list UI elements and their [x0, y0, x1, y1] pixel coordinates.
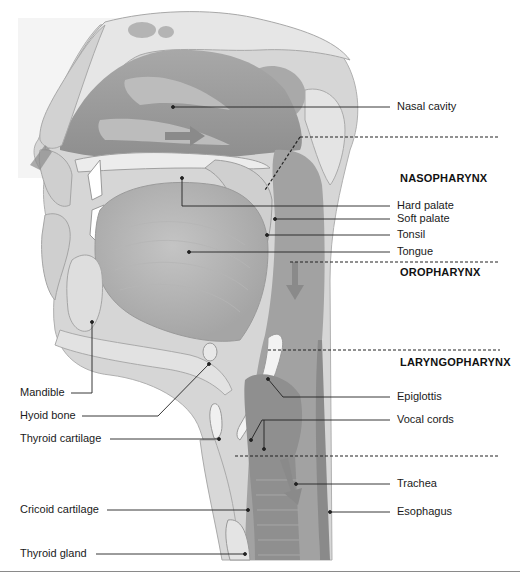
pharynx-anatomy-diagram: NASOPHARYNX OROPHARYNX LARYNGOPHARYNX Na… — [0, 0, 520, 586]
label-trachea: Trachea — [397, 477, 437, 490]
label-tonsil: Tonsil — [397, 228, 425, 241]
label-cricoid-cartilage: Cricoid cartilage — [20, 503, 99, 516]
hyoid-bone-shape — [203, 343, 217, 361]
region-oropharynx: OROPHARYNX — [400, 266, 480, 278]
label-mandible: Mandible — [20, 386, 65, 399]
label-nasal-cavity: Nasal cavity — [397, 100, 456, 113]
label-hard-palate: Hard palate — [397, 199, 454, 212]
label-tongue: Tongue — [397, 245, 433, 258]
label-soft-palate: Soft palate — [397, 212, 450, 225]
frontal-sinus-small — [158, 26, 174, 38]
label-vocal-cords: Vocal cords — [397, 413, 454, 426]
label-esophagus: Esophagus — [397, 505, 452, 518]
region-laryngopharynx: LARYNGOPHARYNX — [400, 356, 511, 368]
region-nasopharynx: NASOPHARYNX — [400, 172, 487, 184]
frontal-sinus — [128, 22, 156, 38]
label-epiglottis: Epiglottis — [397, 390, 442, 403]
label-thyroid-cartilage: Thyroid cartilage — [20, 432, 101, 445]
label-hyoid-bone: Hyoid bone — [20, 409, 76, 422]
mandible-bone — [67, 255, 103, 331]
label-thyroid-gland: Thyroid gland — [20, 547, 87, 560]
bottom-divider — [0, 571, 520, 572]
anatomy-illustration — [0, 0, 520, 586]
